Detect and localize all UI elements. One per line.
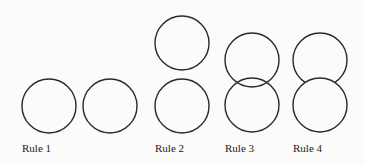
rule-4-label: Rule 4 [293, 142, 322, 154]
rule-1-label: Rule 1 [22, 142, 51, 154]
rule-2-circle-bottom [155, 79, 209, 133]
rule-2-figure [155, 16, 209, 133]
rule-1-circle-left [22, 79, 76, 133]
rules-diagram [0, 0, 365, 164]
rule-1-circle-right [83, 79, 137, 133]
rule-4-circle-bottom [293, 78, 347, 132]
rule-3-figure [225, 33, 279, 132]
rule-2-circle-top [155, 16, 209, 70]
rule-2-label: Rule 2 [155, 142, 184, 154]
rule-3-label: Rule 3 [225, 142, 254, 154]
rule-3-circle-top [225, 33, 279, 87]
rule-4-figure [293, 33, 347, 132]
rule-1-figure [22, 79, 137, 133]
rule-3-circle-bottom [225, 78, 279, 132]
